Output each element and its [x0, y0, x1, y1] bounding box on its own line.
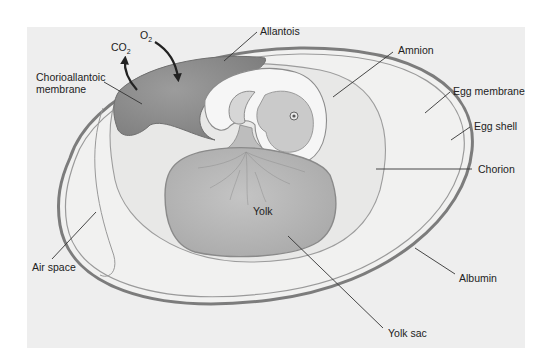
label-chorion: Chorion	[478, 163, 515, 175]
label-amnion: Amnion	[398, 44, 434, 56]
label-egg-membrane: Egg membrane	[453, 85, 525, 97]
label-yolk-sac: Yolk sac	[388, 327, 427, 339]
embryo-pupil	[292, 114, 295, 117]
label-albumin: Albumin	[459, 272, 497, 284]
label-allantois: Allantois	[260, 25, 300, 37]
label-chorioallantoic-line1: Chorioallantoic	[36, 71, 105, 83]
amniotic-egg-diagram: O2 CO2 Allantois Chorioallantoic membran…	[0, 0, 549, 360]
yolk-sac	[165, 148, 336, 257]
label-air-space: Air space	[32, 261, 76, 273]
label-yolk: Yolk	[253, 205, 273, 217]
label-egg-shell: Egg shell	[474, 120, 517, 132]
label-chorioallantoic-line2: membrane	[36, 83, 86, 95]
